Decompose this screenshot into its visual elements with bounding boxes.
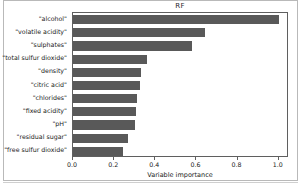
bar-row bbox=[73, 79, 287, 92]
chart-title: RF bbox=[72, 2, 288, 11]
x-axis-tick-mark bbox=[72, 157, 73, 160]
x-axis-tick-mark bbox=[237, 157, 238, 160]
y-axis-tick-label: "citric acid" bbox=[31, 81, 67, 89]
bar bbox=[73, 107, 136, 116]
bar-row bbox=[73, 53, 287, 66]
x-axis-title: Variable importance bbox=[72, 171, 288, 179]
bar-row bbox=[73, 145, 287, 158]
bar-row bbox=[73, 26, 287, 39]
x-axis-tick-mark bbox=[278, 157, 279, 160]
chart-screenshot: RF "alcohol""volatile acidity""sulphates… bbox=[0, 0, 301, 187]
bar-row bbox=[73, 92, 287, 105]
y-axis-tick-label: "fixed acidity" bbox=[23, 107, 67, 115]
y-axis-tick-label: "chlorides" bbox=[33, 94, 67, 102]
bar bbox=[73, 41, 192, 50]
y-axis-tick-label: "pH" bbox=[52, 120, 67, 128]
x-axis-tick-label: 0.2 bbox=[103, 161, 123, 169]
y-axis-tick-label: "residual sugar" bbox=[17, 133, 67, 141]
bar-row bbox=[73, 105, 287, 118]
y-axis-tick-label: "alcohol" bbox=[39, 15, 67, 23]
bar bbox=[73, 94, 137, 103]
x-axis-tick-mark bbox=[154, 157, 155, 160]
bar bbox=[73, 15, 279, 24]
bar-row bbox=[73, 39, 287, 52]
x-axis-tick-label: 0.0 bbox=[62, 161, 82, 169]
x-axis-tick-label: 0.8 bbox=[227, 161, 247, 169]
x-axis-tick-label: 0.6 bbox=[185, 161, 205, 169]
bar bbox=[73, 81, 140, 90]
x-axis-tick-label: 0.4 bbox=[144, 161, 164, 169]
page-bottom-rule bbox=[3, 182, 298, 183]
bar bbox=[73, 147, 123, 156]
y-axis-tick-label: "sulphates" bbox=[31, 41, 67, 49]
x-axis-tick-mark bbox=[113, 157, 114, 160]
y-axis-tick-label: "density" bbox=[38, 67, 67, 75]
bar bbox=[73, 120, 135, 129]
bar bbox=[73, 28, 205, 37]
y-axis-tick-label: "free sulfur dioxide" bbox=[4, 146, 67, 154]
bar-row bbox=[73, 118, 287, 131]
plot-area bbox=[73, 13, 287, 156]
bar-row bbox=[73, 132, 287, 145]
bar-row bbox=[73, 13, 287, 26]
bar bbox=[73, 55, 147, 64]
bar bbox=[73, 68, 141, 77]
x-axis-tick-label: 1.0 bbox=[268, 161, 288, 169]
x-axis-tick-mark bbox=[195, 157, 196, 160]
y-axis-tick-label: "volatile acidity" bbox=[15, 28, 67, 36]
bar-row bbox=[73, 66, 287, 79]
bar bbox=[73, 134, 128, 143]
y-axis-tick-label: "total sulfur dioxide" bbox=[2, 54, 67, 62]
